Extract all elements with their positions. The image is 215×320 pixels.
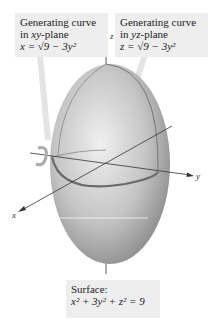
callout-title: Surface: <box>71 283 155 295</box>
z-axis-label: z <box>109 31 114 41</box>
yz-plane-callout: Generating curve in yz-plane z = √9 − 3y… <box>115 13 208 57</box>
callout-equation: z = √9 − 3y² <box>120 40 203 52</box>
callout-plane: in xy-plane <box>20 28 103 40</box>
plane-name: xy <box>31 28 41 40</box>
plane-prefix: in <box>20 28 31 40</box>
plane-suffix: -plane <box>140 28 167 40</box>
x-axis-label: x <box>11 210 16 220</box>
callout-title: Generating curve <box>20 16 103 28</box>
x-axis-arrow <box>18 206 26 212</box>
y-axis-label: y <box>195 171 200 181</box>
y-axis-arrow <box>187 173 195 178</box>
xy-leader <box>40 55 48 140</box>
xy-plane-callout: Generating curve in xy-plane x = √9 − 3y… <box>15 13 108 57</box>
plane-prefix: in <box>120 28 131 40</box>
callout-equation: x = √9 − 3y² <box>20 40 103 52</box>
rotation-arrow-icon <box>36 147 46 164</box>
plane-suffix: -plane <box>41 28 68 40</box>
callout-title: Generating curve <box>120 16 203 28</box>
callout-plane: in yz-plane <box>120 28 203 40</box>
callout-equation: x² + 3y² + z² = 9 <box>71 295 155 307</box>
surface-callout: Surface: x² + 3y² + z² = 9 <box>66 280 160 318</box>
